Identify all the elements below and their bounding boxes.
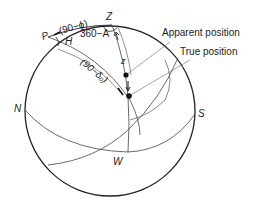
label-H: H xyxy=(65,36,73,47)
celestial-sphere-diagram: P (90−ϕ) Z 360−A H (90−δ₀) z Apparent po… xyxy=(0,0,261,205)
true-leader-line xyxy=(129,60,190,96)
equator-arc xyxy=(48,58,178,165)
label-W: W xyxy=(113,156,124,167)
label-N: N xyxy=(14,103,22,114)
label-P: P xyxy=(40,29,50,42)
celestial-sphere-outline xyxy=(25,26,195,196)
label-S: S xyxy=(198,108,205,119)
apparent-position-dot xyxy=(123,72,128,77)
refraction-circle xyxy=(130,60,170,120)
label-apparent-position: Apparent position xyxy=(162,27,240,38)
label-azimuth: 360−A xyxy=(80,28,110,39)
apparent-leader-line xyxy=(126,42,170,75)
label-true-position: True position xyxy=(180,46,237,57)
horizon-arc xyxy=(25,110,195,152)
label-Z: Z xyxy=(105,11,113,22)
true-position-dot xyxy=(126,93,132,99)
label-z: z xyxy=(120,56,126,66)
